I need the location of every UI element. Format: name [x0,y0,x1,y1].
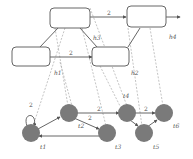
box-c [12,47,50,66]
mapping-label-h3: h3 [93,34,101,41]
mapping-label-h4: h4 [169,33,177,40]
node-label-t4: t4 [123,92,129,99]
edge-label-a-b: 2 [107,9,111,16]
mapping-label-h2: h2 [131,69,139,76]
node-t2 [60,104,78,122]
graph-homomorphism-diagram: 2 2 h1 h2 h3 h4 2 2 2 2 t1 t2 t3 t4 t5 t… [0,0,193,159]
node-t4 [118,104,136,122]
node-t6 [155,104,173,122]
node-label-t2: t2 [78,122,84,129]
edge-label-t4-t6: 2 [144,105,148,112]
node-label-t3: t3 [115,143,121,150]
edge-label-c-d: 2 [69,49,73,56]
edge-label-t2-t4: 2 [97,105,101,112]
edge-label-self-loop: 2 [29,101,33,108]
node-label-t6: t6 [173,122,179,129]
node-t3 [98,124,116,142]
box-d [92,47,129,66]
node-t1 [22,124,40,142]
mapping-label-h1: h1 [54,69,62,76]
box-a [50,8,90,28]
edge-label-t2-t3: 2 [88,114,92,121]
node-t5 [135,124,153,142]
box-b [127,6,166,27]
node-label-t5: t5 [153,143,159,150]
node-label-t1: t1 [40,143,46,150]
